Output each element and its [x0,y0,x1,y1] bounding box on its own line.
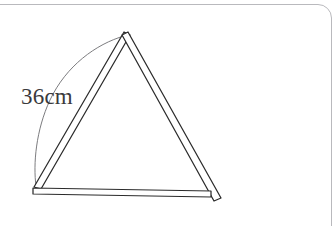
triangle-figure [0,0,336,226]
measurement-label: 36cm [21,84,73,110]
left-rod [34,32,130,189]
base-rod [33,188,211,197]
right-rod [122,32,221,201]
